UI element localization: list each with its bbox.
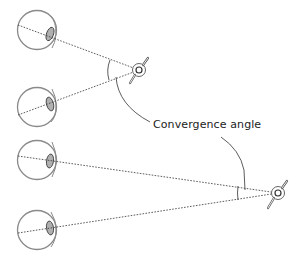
target-1 [130,58,148,83]
angle-arc-1 [108,60,110,80]
angle-arc-2 [238,186,239,200]
leader-line-2 [221,137,245,190]
leader-line-1 [116,77,150,122]
far-scenario [18,141,288,250]
convergence-angle-label: Convergence angle [153,118,261,131]
near-scenario [18,11,149,127]
eye-top-1 [18,11,140,71]
eye-bottom-1 [18,70,140,127]
eye-bottom-2 [18,193,279,250]
eye-top-2 [18,141,279,194]
convergence-diagram [0,0,304,265]
